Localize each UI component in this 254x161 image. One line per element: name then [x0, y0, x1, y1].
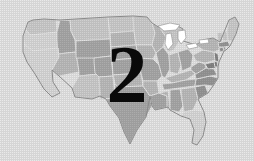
map-overlay-numeral: 2 [96, 38, 158, 112]
lake-ontario [199, 39, 209, 44]
us-map-figure: 2 [0, 0, 254, 161]
